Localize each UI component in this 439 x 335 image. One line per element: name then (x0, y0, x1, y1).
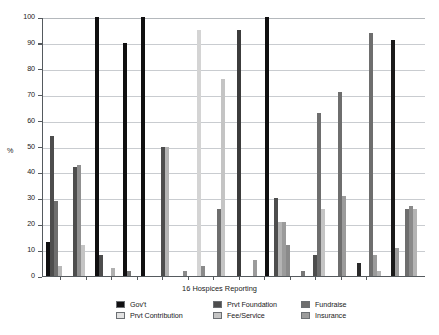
legend-entry-prvt-contribution[interactable]: Prvt Contribution (116, 311, 213, 320)
bar (391, 40, 395, 276)
legend-swatch-icon (116, 301, 125, 309)
gridline-50 (43, 148, 425, 149)
y-tick-label: 100 (23, 12, 35, 21)
bar (95, 17, 99, 276)
legend-entry-insurance[interactable]: Insurance (301, 311, 381, 320)
bar (265, 17, 269, 276)
bar (286, 245, 290, 276)
gridline-10 (43, 251, 425, 252)
x-axis-tick (213, 276, 214, 280)
x-axis-tick (264, 276, 265, 280)
y-tick-label: 80 (27, 64, 35, 73)
bar (301, 271, 305, 276)
bar (377, 271, 381, 276)
legend-swatch-icon (116, 312, 125, 320)
bar (127, 271, 131, 276)
bar (369, 33, 373, 276)
bar (237, 30, 241, 276)
gridline-30 (43, 199, 425, 200)
legend-label: Prvt Foundation (227, 300, 277, 309)
x-axis-tick (315, 276, 316, 280)
bar (123, 43, 127, 276)
x-axis-tick (188, 276, 189, 280)
y-tick-label: 20 (27, 219, 35, 228)
bar (221, 79, 225, 276)
y-tick-label: 40 (27, 167, 35, 176)
gridline-60 (43, 122, 425, 123)
plot-area (42, 18, 425, 277)
bar (395, 248, 399, 276)
x-axis-tick (86, 276, 87, 280)
legend-entry-prvt-foundation[interactable]: Prvt Foundation (213, 300, 301, 309)
bar (321, 209, 325, 276)
legend-entry-fee-service[interactable]: Fee/Service (213, 311, 301, 320)
legend-swatch-icon (213, 312, 222, 320)
bar (201, 266, 205, 276)
bar (99, 255, 103, 276)
bar (197, 30, 201, 276)
gridline-40 (43, 173, 425, 174)
y-tick-label: 0 (31, 271, 35, 280)
gridline-20 (43, 225, 425, 226)
legend-label: Fundraise (315, 300, 347, 309)
legend-swatch-icon (301, 312, 310, 320)
gridline-80 (43, 70, 425, 71)
bar (111, 268, 115, 276)
chart-legend: Gov'tPrvt FoundationFundraisePrvt Contri… (116, 299, 381, 321)
x-axis-tick (366, 276, 367, 280)
gridline-70 (43, 96, 425, 97)
legend-swatch-icon (213, 301, 222, 309)
y-tick-label: 90 (27, 38, 35, 47)
bar (141, 17, 145, 276)
y-tick-label: 10 (27, 245, 35, 254)
legend-swatch-icon (301, 301, 310, 309)
x-axis-tick (341, 276, 342, 280)
legend-label: Gov't (130, 300, 146, 309)
y-tick-label: 50 (27, 142, 35, 151)
bar (165, 147, 169, 277)
x-axis-tick (60, 276, 61, 280)
x-axis-title: 16 Hospices Reporting (0, 284, 439, 293)
gridline-100 (43, 18, 425, 19)
x-axis-tick (137, 276, 138, 280)
bar-chart-figure: % 1009080706050403020100 16 Hospices Rep… (0, 0, 439, 335)
y-tick-label: 30 (27, 193, 35, 202)
y-tick-label: 60 (27, 116, 35, 125)
legend-label: Prvt Contribution (130, 311, 183, 320)
bar (253, 260, 257, 276)
legend-label: Insurance (315, 311, 346, 320)
bar (342, 196, 346, 276)
bar (81, 245, 85, 276)
y-axis: 1009080706050403020100 (0, 18, 42, 277)
x-axis-tick (239, 276, 240, 280)
bar (58, 266, 62, 276)
legend-label: Fee/Service (227, 311, 265, 320)
x-axis-tick (111, 276, 112, 280)
legend-entry-gov-t[interactable]: Gov't (116, 300, 213, 309)
x-axis-tick (162, 276, 163, 280)
bar (183, 271, 187, 276)
bar (413, 209, 417, 276)
gridline-90 (43, 44, 425, 45)
legend-entry-fundraise[interactable]: Fundraise (301, 300, 381, 309)
y-tick-label: 70 (27, 90, 35, 99)
bar (357, 263, 361, 276)
x-axis-tick (290, 276, 291, 280)
